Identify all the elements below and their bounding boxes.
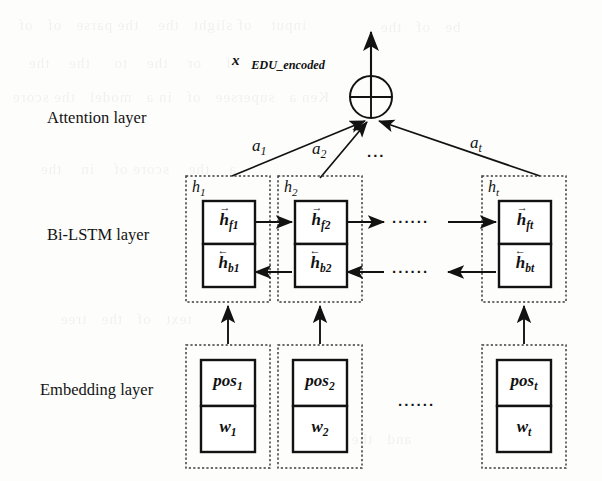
cell-label-pos-2-sub: 2 bbox=[329, 380, 335, 393]
cell-label-word-2: w2 bbox=[293, 417, 347, 439]
attention-weight-2-sub: 2 bbox=[321, 147, 327, 161]
bilstm-group-label-2-sub: 2 bbox=[292, 186, 298, 198]
attention-weight-1: a1 bbox=[252, 136, 266, 159]
forward-arrow-accent-1: → bbox=[219, 201, 226, 213]
cell-label-word-2-base: w bbox=[311, 417, 322, 436]
bilstm-group-label-t-sub: t bbox=[496, 186, 499, 198]
cell-label-word-1-base: w bbox=[219, 417, 230, 436]
cell-label-forward-1-sub: f1 bbox=[229, 219, 239, 232]
backward-arrow-accent-2: ← bbox=[309, 244, 316, 256]
attention-weight-1-sub: 1 bbox=[261, 144, 267, 158]
cell-label-word-t: wt bbox=[497, 417, 551, 439]
attention-weight-2: a2 bbox=[312, 139, 326, 162]
cell-label-backward-1-sub: b1 bbox=[228, 262, 240, 275]
cell-label-word-1: w1 bbox=[201, 417, 255, 439]
output-vector-symbol: x⃗ bbox=[232, 52, 251, 69]
attention-ellipsis: ... bbox=[367, 143, 386, 160]
cell-label-pos-t: post bbox=[497, 371, 551, 393]
cell-label-forward-2-sub: f2 bbox=[321, 219, 331, 232]
bilstm-group-label-t: ht bbox=[488, 178, 499, 198]
bilstm-group-label-1-base: h bbox=[192, 178, 200, 195]
cell-label-word-2-sub: 2 bbox=[323, 426, 329, 439]
cell-label-pos-1-base: pos bbox=[213, 371, 237, 390]
layer-label-attention: Attention layer bbox=[47, 108, 146, 128]
layer-label-bilstm: Bi-LSTM layer bbox=[47, 225, 149, 245]
layer-label-embedding: Embedding layer bbox=[40, 380, 153, 400]
backward-arrow-accent-t: ← bbox=[515, 244, 522, 256]
attention-weight-t-sub: t bbox=[479, 141, 482, 155]
attention-weight-t: at bbox=[470, 133, 482, 156]
bilstm-forward-ellipsis: ······ bbox=[392, 213, 429, 230]
cell-label-pos-2: pos2 bbox=[293, 371, 347, 393]
cell-label-backward-2-sub: b2 bbox=[320, 262, 332, 275]
embedding-to-lstm-arrows bbox=[228, 306, 524, 344]
embedding-ellipsis: ······ bbox=[398, 396, 435, 413]
cell-label-pos-t-sub: t bbox=[534, 380, 537, 393]
attention-weight-2-base: a bbox=[312, 139, 321, 158]
bilstm-backward-ellipsis: ······ bbox=[392, 263, 429, 280]
bilstm-group-label-2-base: h bbox=[284, 178, 292, 195]
cell-label-backward-t-sub: bt bbox=[525, 262, 534, 275]
cell-label-pos-1-sub: 1 bbox=[237, 380, 243, 393]
cell-label-forward-1: → hf1 bbox=[203, 210, 255, 232]
attention-weight-t-base: a bbox=[470, 133, 479, 152]
cell-label-pos-1: pos1 bbox=[201, 371, 255, 393]
cell-label-word-t-sub: t bbox=[528, 426, 531, 439]
cell-label-backward-1: ← hb1 bbox=[203, 253, 255, 275]
cell-label-forward-t-sub: ft bbox=[526, 219, 533, 232]
cell-label-word-1-sub: 1 bbox=[231, 426, 237, 439]
bilstm-group-label-2: h2 bbox=[284, 178, 298, 198]
bilstm-group-label-1: h1 bbox=[192, 178, 206, 198]
attention-weight-1-base: a bbox=[252, 136, 261, 155]
cell-label-forward-t: → hft bbox=[499, 210, 551, 232]
forward-arrow-accent-t: → bbox=[517, 201, 524, 213]
cell-label-pos-2-base: pos bbox=[305, 371, 329, 390]
output-vector-subscript: EDU_encoded bbox=[251, 58, 325, 72]
cell-label-backward-2: ← hb2 bbox=[295, 253, 347, 275]
output-vector-label: x⃗EDU_encoded bbox=[232, 52, 325, 73]
cell-label-forward-2: → hf2 bbox=[295, 210, 347, 232]
bilstm-group-label-1-sub: 1 bbox=[200, 186, 206, 198]
backward-arrow-accent-1: ← bbox=[217, 244, 224, 256]
cell-label-word-t-base: w bbox=[517, 417, 528, 436]
sum-node-circled-plus bbox=[350, 76, 392, 118]
attention-edges bbox=[232, 121, 540, 178]
cell-label-pos-t-base: pos bbox=[511, 371, 535, 390]
cell-label-backward-t: ← hbt bbox=[499, 253, 551, 275]
forward-arrow-accent-2: → bbox=[311, 201, 318, 213]
bilstm-group-label-t-base: h bbox=[488, 178, 496, 195]
figure-canvas: input of slight the the parse of of of o… bbox=[0, 0, 602, 481]
